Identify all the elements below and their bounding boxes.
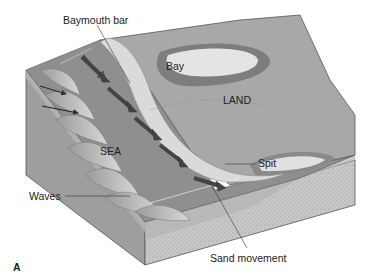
label-land: LAND <box>223 95 251 106</box>
panel-label: A <box>13 262 21 273</box>
label-baymouth-bar: Baymouth bar <box>63 15 128 26</box>
label-waves: Waves <box>29 191 61 202</box>
label-sea: SEA <box>100 146 121 157</box>
coastal-block-diagram <box>0 0 375 278</box>
label-sand-movement: Sand movement <box>210 253 286 264</box>
label-bay: Bay <box>166 61 184 72</box>
diagram-stage: Baymouth bar Bay LAND SEA Spit Waves San… <box>0 0 375 278</box>
label-spit: Spit <box>258 158 276 169</box>
